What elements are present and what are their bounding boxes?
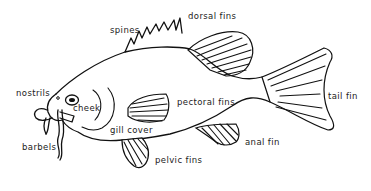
- label-spines: spines: [110, 26, 140, 35]
- pelvic-fin: [122, 138, 149, 168]
- anal-fin: [196, 124, 239, 145]
- label-pectoral-fins: pectoral fins: [177, 98, 235, 107]
- label-dorsal-fins: dorsal fins: [188, 12, 236, 21]
- tail-fin: [262, 48, 334, 130]
- label-cheek: cheek: [73, 104, 100, 113]
- fish-diagram: spines dorsal fins nostrils cheek pector…: [0, 0, 371, 191]
- label-nostrils: nostrils: [16, 89, 50, 98]
- barbels-drawing: [44, 110, 64, 160]
- label-gill-cover: gill cover: [110, 126, 153, 135]
- nostril: [57, 97, 60, 100]
- label-tail-fin: tail fin: [328, 92, 358, 101]
- label-pelvic-fins: pelvic fins: [155, 156, 202, 165]
- label-barbels: barbels: [22, 143, 56, 152]
- pectoral-fin: [128, 94, 169, 122]
- label-anal-fin: anal fin: [245, 138, 280, 147]
- pupil: [69, 98, 75, 102]
